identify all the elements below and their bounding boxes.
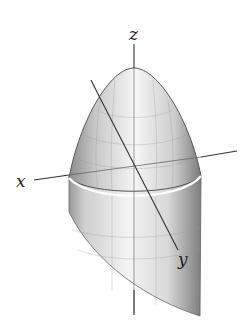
cylinder-body [69,176,201,316]
z-axis-label: z [128,24,139,44]
x-axis-left [34,175,69,180]
x-axis-right [201,151,237,157]
y-axis-label: y [177,249,188,269]
solid-diagram: z x y [0,0,250,335]
x-axis-label: x [16,171,26,191]
paraboloid-cap [69,68,201,191]
y-axis-top [91,80,99,96]
